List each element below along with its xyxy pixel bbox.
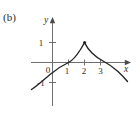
x-tick-label-0: 0 bbox=[46, 65, 51, 75]
y-axis-label: y bbox=[43, 15, 49, 25]
y-tick-label-1: 1 bbox=[39, 38, 44, 48]
y-axis-arrow-icon bbox=[50, 17, 55, 23]
x-tick-label-2: 2 bbox=[82, 66, 87, 76]
x-axis-label: x bbox=[123, 64, 129, 74]
x-tick-label-1: 1 bbox=[65, 66, 70, 76]
x-tick-label-3: 3 bbox=[98, 66, 103, 76]
figure-panel-b: (b) 1 -1 0 1 2 3 y x bbox=[0, 0, 140, 115]
y-tick-label-neg1: -1 bbox=[37, 78, 45, 88]
plot-area: 1 -1 0 1 2 3 y x bbox=[0, 0, 140, 115]
cusp-point-marker bbox=[83, 41, 86, 44]
